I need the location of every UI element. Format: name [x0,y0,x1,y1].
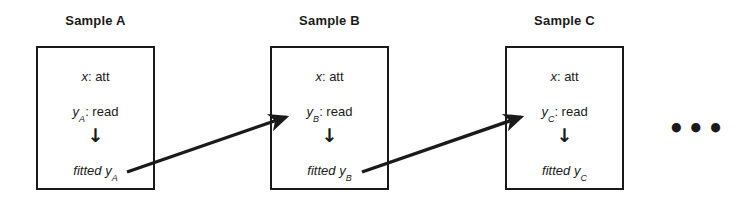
read-var-c: y [541,104,548,119]
attribute-line-b: x: att [272,70,387,83]
fitted-label-a: fitted y [73,163,111,178]
fitted-label-c: fitted y [542,163,580,178]
sample-title-a: Sample A [36,13,155,28]
down-arrow-icon-c: ↓ [507,126,622,145]
sample-box-a: x: att yA: read ↓ fitted yA [36,46,155,190]
sample-title-c: Sample C [505,13,624,28]
read-value-a: : read [85,104,118,119]
down-arrow-icon-a: ↓ [38,126,153,145]
fitted-label-b: fitted y [307,163,345,178]
attribute-value-a: : att [88,69,110,84]
fitted-line-c: fitted yC [507,164,622,181]
attribute-line-c: x: att [507,70,622,83]
attribute-value-b: : att [322,69,344,84]
diagram-canvas: Sample A x: att yA: read ↓ fitted yA Sam… [0,0,737,209]
read-line-c: yC: read [507,105,622,122]
read-subscript-c: C [548,114,555,124]
sample-box-b: x: att yB: read ↓ fitted yB [270,46,389,190]
read-value-b: : read [319,104,352,119]
read-line-a: yA: read [38,105,153,122]
down-arrow-icon-b: ↓ [272,126,387,145]
fitted-subscript-c: C [580,173,587,183]
fitted-subscript-b: B [346,173,352,183]
fitted-line-a: fitted yA [38,164,153,181]
read-subscript-b: B [313,114,319,124]
ellipsis-indicator: ••• [668,116,727,142]
read-value-c: : read [554,104,587,119]
fitted-line-b: fitted yB [272,164,387,181]
fitted-subscript-a: A [112,173,118,183]
sample-box-c: x: att yC: read ↓ fitted yC [505,46,624,190]
read-line-b: yB: read [272,105,387,122]
attribute-value-c: : att [557,69,579,84]
attribute-line-a: x: att [38,70,153,83]
sample-title-b: Sample B [270,13,389,28]
read-subscript-a: A [79,114,85,124]
